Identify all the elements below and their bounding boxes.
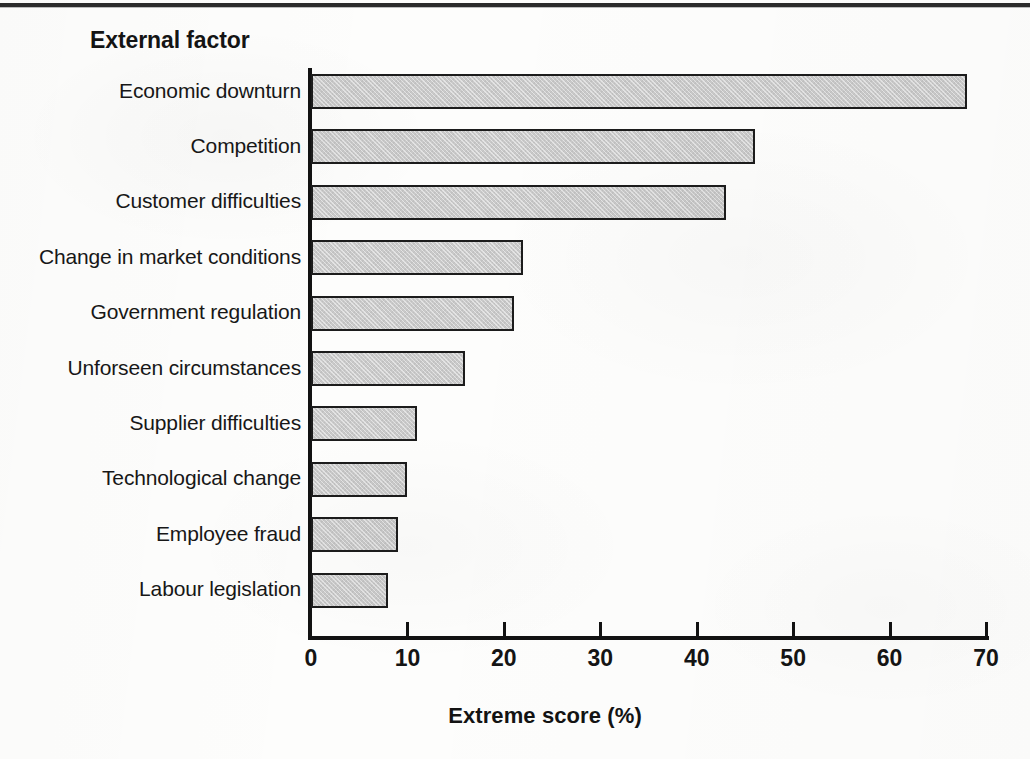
x-axis-tick (599, 622, 602, 636)
bar (311, 406, 417, 441)
category-label: Labour legislation (1, 577, 301, 601)
bar (311, 240, 523, 275)
x-axis-tick-label: 70 (956, 645, 1016, 672)
category-label: Technological change (1, 466, 301, 490)
x-axis-tick (696, 622, 699, 636)
x-axis-tick-label: 60 (860, 645, 920, 672)
x-axis-tick-label: 10 (377, 645, 437, 672)
category-label: Competition (1, 134, 301, 158)
bar (311, 296, 514, 331)
bar (311, 351, 465, 386)
bar (311, 517, 398, 552)
bar (311, 129, 755, 164)
category-label: Economic downturn (1, 79, 301, 103)
x-axis-tick (406, 622, 409, 636)
bar (311, 462, 407, 497)
x-axis-title-text: Extreme score (%) (448, 703, 642, 729)
x-axis-tick (889, 622, 892, 636)
bar (311, 573, 388, 608)
x-axis-title: Extreme score (%) (0, 703, 1030, 729)
x-axis-tick-label: 0 (281, 645, 341, 672)
x-axis-tick (792, 622, 795, 636)
bar (311, 185, 726, 220)
category-label: Change in market conditions (1, 245, 301, 269)
bar (311, 74, 967, 109)
x-axis-tick (985, 622, 988, 636)
category-label: Government regulation (1, 300, 301, 324)
x-axis-tick (503, 622, 506, 636)
plot-area: Economic downturnCompetitionCustomer dif… (0, 0, 1030, 759)
category-label: Unforseen circumstances (1, 356, 301, 380)
x-axis-tick-label: 20 (474, 645, 534, 672)
x-axis-tick-label: 40 (667, 645, 727, 672)
category-label: Employee fraud (1, 522, 301, 546)
x-axis-tick-label: 30 (570, 645, 630, 672)
category-label: Customer difficulties (1, 189, 301, 213)
x-axis-tick-label: 50 (763, 645, 823, 672)
category-label: Supplier difficulties (1, 411, 301, 435)
chart-page: External factor Economic downturnCompeti… (0, 0, 1030, 759)
x-axis-line (308, 636, 989, 640)
